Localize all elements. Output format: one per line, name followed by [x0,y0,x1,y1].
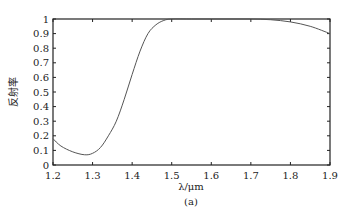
reflectance-chart: 1.21.31.41.51.61.71.81.9 00.10.20.30.40.… [0,0,351,218]
y-tick-label: 0.4 [33,101,49,112]
y-axis-ticks: 00.10.20.30.40.50.60.70.80.91 [33,14,330,171]
figure-caption: (a) [184,196,198,207]
y-tick-label: 0.2 [33,130,49,141]
y-tick-label: 0 [43,160,49,171]
x-tick-label: 1.7 [243,170,259,181]
x-tick-label: 1.9 [322,170,338,181]
x-axis-ticks: 1.21.31.41.51.61.71.81.9 [45,19,338,181]
reflectance-curve [53,19,330,155]
y-tick-label: 1 [43,14,49,25]
x-tick-label: 1.8 [282,170,298,181]
data-series [53,19,330,155]
y-tick-label: 0.3 [33,116,49,127]
plot-frame [53,19,330,165]
x-tick-label: 1.2 [45,170,61,181]
axes-box [53,19,330,165]
y-tick-label: 0.1 [33,145,49,156]
y-tick-label: 0.6 [33,72,49,83]
y-tick-label: 0.5 [33,87,49,98]
x-tick-label: 1.5 [164,170,180,181]
y-tick-label: 0.9 [33,28,49,39]
x-tick-label: 1.6 [203,170,219,181]
y-tick-label: 0.7 [33,57,49,68]
x-axis-label: λ/μm [178,181,204,192]
x-tick-label: 1.3 [85,170,101,181]
y-axis-label: 反射率 [7,77,19,107]
y-tick-label: 0.8 [33,43,49,54]
x-tick-label: 1.4 [124,170,140,181]
